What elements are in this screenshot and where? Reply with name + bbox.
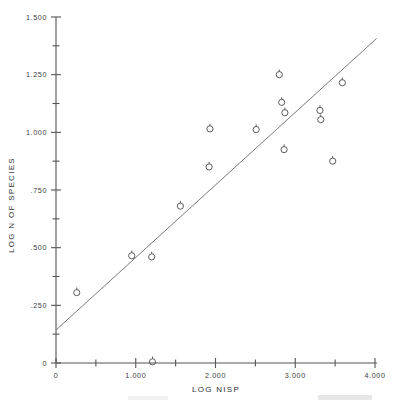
y-tick-label: 0 bbox=[42, 359, 47, 368]
data-point-circle bbox=[318, 117, 324, 123]
data-point-circle bbox=[282, 110, 288, 116]
x-axis-title: LOG NISP bbox=[192, 385, 240, 394]
y-tick-label: 1.250 bbox=[26, 70, 47, 79]
x-tick-label: 2.000 bbox=[205, 371, 226, 380]
data-point bbox=[206, 162, 212, 170]
data-point-circle bbox=[317, 107, 323, 113]
chart-canvas: 0.250.500.7501.0001.2501.500 01.0002.000… bbox=[0, 0, 395, 402]
data-point bbox=[330, 156, 336, 164]
data-point bbox=[339, 78, 345, 86]
data-point-circle bbox=[149, 254, 155, 260]
data-point bbox=[177, 201, 183, 209]
y-tick-label: 1.000 bbox=[26, 128, 47, 137]
data-point bbox=[129, 251, 135, 259]
data-point-circle bbox=[339, 80, 345, 86]
y-tick-label: .750 bbox=[31, 186, 47, 195]
data-point-circle bbox=[330, 158, 336, 164]
scan-artifact-bottom-left bbox=[128, 396, 168, 400]
data-point bbox=[276, 69, 282, 77]
data-point-circle bbox=[129, 253, 135, 259]
data-point bbox=[317, 105, 323, 113]
y-tick-label: .500 bbox=[31, 243, 47, 252]
y-axis-title: LOG N OF SPECIES bbox=[7, 157, 16, 253]
data-point bbox=[74, 287, 80, 295]
data-point-circle bbox=[177, 203, 183, 209]
data-point-circle bbox=[276, 72, 282, 78]
axes-group bbox=[56, 17, 377, 363]
data-point-circle bbox=[281, 147, 287, 153]
data-point-circle bbox=[279, 99, 285, 105]
x-tick-label: 4.000 bbox=[365, 371, 386, 380]
scan-artifact-bottom-right bbox=[318, 395, 372, 400]
data-point-circle bbox=[253, 126, 259, 132]
data-point bbox=[207, 124, 213, 132]
data-point bbox=[253, 124, 259, 132]
scatter-plot-figure: 0.250.500.7501.0001.2501.500 01.0002.000… bbox=[0, 0, 395, 402]
x-tick-label: 0 bbox=[54, 371, 59, 380]
data-point-circle bbox=[207, 126, 213, 132]
data-point-circle bbox=[206, 164, 212, 170]
data-point-circle bbox=[149, 359, 155, 365]
y-tick-label: .250 bbox=[31, 301, 47, 310]
data-point bbox=[149, 357, 155, 365]
data-point-group bbox=[74, 69, 346, 364]
data-point bbox=[318, 114, 324, 122]
regression-line bbox=[56, 38, 377, 330]
x-axis-ticks: 01.0002.0003.0004.000 bbox=[54, 358, 386, 380]
data-point bbox=[282, 108, 288, 116]
data-point bbox=[149, 252, 155, 260]
y-tick-label: 1.500 bbox=[26, 13, 47, 22]
x-tick-label: 3.000 bbox=[285, 371, 306, 380]
data-point bbox=[281, 144, 287, 152]
data-point bbox=[279, 97, 285, 105]
data-point-circle bbox=[74, 290, 80, 296]
x-tick-label: 1.000 bbox=[125, 371, 146, 380]
